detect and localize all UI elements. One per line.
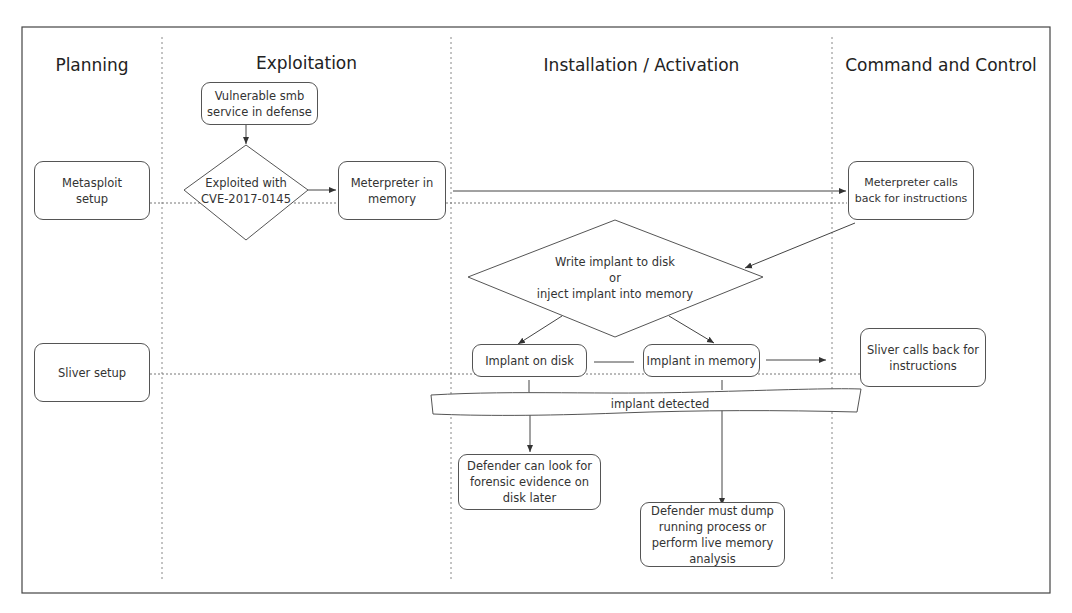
metasploit-setup-node: Metasploit setup xyxy=(34,161,150,220)
defender-memory-node: Defender must dump running process or pe… xyxy=(640,502,785,567)
meterpreter-calls-back-node: Meterpreter calls back for instructions xyxy=(848,161,974,220)
implant-detected-label: implant detected xyxy=(560,396,760,412)
write-or-inject-label: Write implant to disk or inject implant … xyxy=(530,254,700,302)
lane-title-planning: Planning xyxy=(22,55,162,75)
meterpreter-memory-node: Meterpreter in memory xyxy=(338,161,446,220)
lane-title-installation: Installation / Activation xyxy=(451,55,832,75)
implant-in-memory-node: Implant in memory xyxy=(643,344,760,377)
diagram-canvas xyxy=(0,0,1072,613)
lane-title-exploitation: Exploitation xyxy=(162,53,451,73)
exploited-cve-label: Exploited with CVE-2017-0145 xyxy=(186,175,306,207)
defender-disk-node: Defender can look for forensic evidence … xyxy=(458,454,601,510)
implant-on-disk-node: Implant on disk xyxy=(472,344,587,377)
sliver-setup-node: Sliver setup xyxy=(34,343,150,402)
vulnerable-smb-node: Vulnerable smb service in defense xyxy=(201,82,318,125)
sliver-calls-back-node: Sliver calls back for instructions xyxy=(860,328,986,387)
lane-title-c2: Command and Control xyxy=(832,55,1050,75)
